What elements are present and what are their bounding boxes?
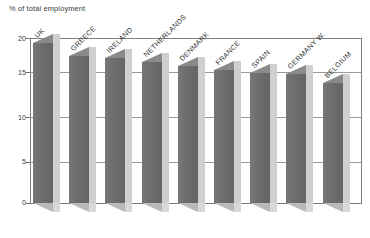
bar-foot — [286, 203, 306, 212]
bar-foot-side — [198, 203, 205, 212]
bar-front-face — [142, 62, 162, 203]
bar-foot-side — [270, 203, 277, 212]
bar-foot — [250, 203, 270, 212]
bar-foot-side — [89, 203, 96, 212]
bar-foot-side — [162, 203, 169, 212]
y-tick-label-0: 0 — [6, 198, 26, 207]
bar-front-face — [33, 43, 53, 203]
bar-denmark — [178, 38, 208, 222]
bar-front-face — [250, 73, 270, 203]
bar-side-face — [343, 74, 350, 203]
y-tick-label-10: 10 — [6, 113, 26, 122]
bar-front-face — [323, 83, 343, 203]
bar-foot — [142, 203, 162, 212]
bar-foot — [214, 203, 234, 212]
bar-side-face — [306, 65, 313, 203]
bar-side-face — [125, 49, 132, 203]
bar-greece — [69, 38, 99, 222]
bar-side-face — [53, 34, 60, 203]
y-tick-label-5: 5 — [6, 157, 26, 166]
bar-netherlands — [142, 38, 172, 222]
bar-foot-side — [343, 203, 350, 212]
bar-front-face — [214, 70, 234, 203]
bar-front-face — [286, 74, 306, 203]
bars-layer — [30, 38, 362, 222]
bar-foot-side — [53, 203, 60, 212]
y-tick-label-20: 20 — [6, 34, 26, 43]
bar-uk — [33, 38, 63, 222]
bar-foot — [178, 203, 198, 212]
bar-front-face — [178, 66, 198, 203]
bar-foot-side — [125, 203, 132, 212]
bar-foot — [323, 203, 343, 212]
bar-foot — [33, 203, 53, 212]
bar-side-face — [89, 47, 96, 203]
bar-foot-side — [306, 203, 313, 212]
bar-foot-side — [234, 203, 241, 212]
chart-title: % of total employment — [9, 4, 85, 13]
bar-foot — [69, 203, 89, 212]
bar-side-face — [234, 61, 241, 203]
bar-side-face — [270, 64, 277, 203]
bar-front-face — [105, 58, 125, 203]
bar-side-face — [198, 57, 205, 203]
bar-chart: % of total employment 20 15 10 5 0 UKGRE… — [0, 0, 370, 238]
bar-foot — [105, 203, 125, 212]
y-tick-label-15: 15 — [6, 68, 26, 77]
bar-front-face — [69, 56, 89, 203]
bar-side-face — [162, 53, 169, 203]
bar-ireland — [105, 38, 135, 222]
